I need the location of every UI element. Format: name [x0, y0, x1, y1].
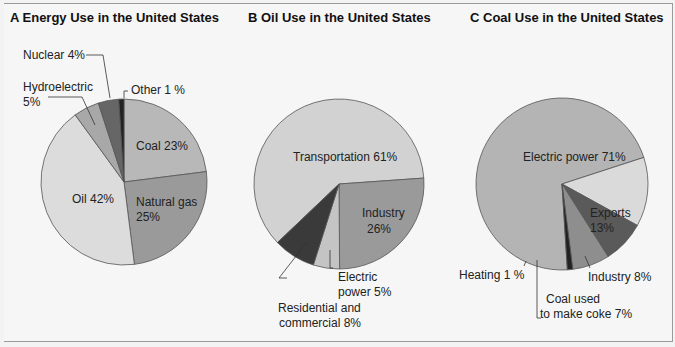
- label-coke-2: to make coke 7%: [540, 307, 632, 322]
- chart-a-title: A Energy Use in the United States: [10, 10, 219, 25]
- label-residential-2: commercial 8%: [279, 316, 361, 331]
- pie-a: [41, 99, 207, 265]
- label-heating: Heating 1 %: [459, 268, 524, 283]
- chart-c-title: C Coal Use in the United States: [470, 10, 664, 25]
- label-residential-1: Residential and: [278, 301, 361, 316]
- chart-b-title: B Oil Use in the United States: [248, 10, 431, 25]
- label-industry-2: 26%: [367, 222, 391, 237]
- label-natural-gas-2: 25%: [136, 210, 160, 225]
- label-transportation: Transportation 61%: [293, 150, 397, 165]
- label-industry: Industry 8%: [588, 270, 651, 285]
- pie-b: [254, 99, 424, 269]
- label-exports-1: Exports: [590, 206, 631, 221]
- label-oil: Oil 42%: [72, 192, 114, 207]
- label-hydroelectric-2: 5%: [23, 95, 40, 110]
- label-electric-power-1: Electric: [338, 270, 377, 285]
- label-other: Other 1 %: [131, 83, 185, 98]
- label-coal: Coal 23%: [136, 139, 188, 154]
- label-coke-1: Coal used: [546, 292, 600, 307]
- label-electric-power-2: power 5%: [338, 285, 391, 300]
- label-electric-power: Electric power 71%: [523, 150, 626, 165]
- label-natural-gas-1: Natural gas: [136, 195, 197, 210]
- pie-c: [476, 98, 648, 270]
- label-industry-1: Industry: [362, 206, 405, 221]
- label-hydroelectric-1: Hydroelectric: [23, 80, 93, 95]
- label-nuclear: Nuclear 4%: [23, 48, 85, 63]
- label-exports-2: 13%: [590, 221, 614, 236]
